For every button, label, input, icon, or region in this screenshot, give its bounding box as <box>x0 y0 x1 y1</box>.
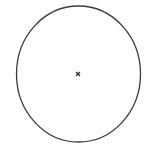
diagram-canvas <box>0 0 154 154</box>
diagram-background <box>0 0 154 154</box>
